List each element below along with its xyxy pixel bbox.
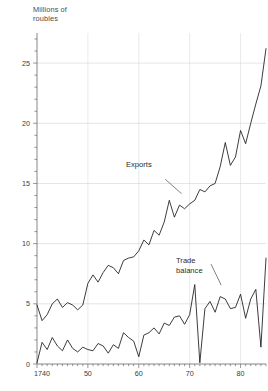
trade-balance-leader-line <box>211 264 221 285</box>
chart-plot-area <box>0 0 268 391</box>
exports-leader-line <box>165 179 181 193</box>
chart-container: Millions of roubles Exports Trade balanc… <box>0 0 268 391</box>
trade-balance-line <box>37 258 266 363</box>
exports-line <box>37 49 266 321</box>
